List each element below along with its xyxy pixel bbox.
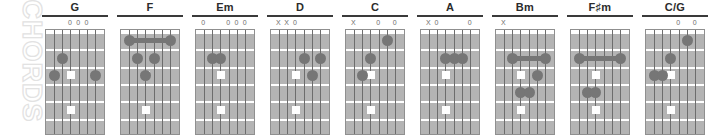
finger-dot [357,70,368,81]
finger-dot [49,70,60,81]
fretboard[interactable] [570,29,630,135]
fret-inlay-marker [367,71,375,79]
chord-sheet: CHORDS G000FEm0000DXX0CX00AX00BmXF♯mC/G0… [0,0,711,138]
finger-dot [532,70,543,81]
string-line [520,30,521,134]
chord-name: F [113,0,187,15]
chord-diagram[interactable]: F [113,0,187,138]
string-line [204,30,205,134]
string-line [229,30,230,134]
string-line [79,30,80,134]
string-line [454,30,455,134]
string-line [62,30,63,134]
string-line [445,30,446,134]
chord-name-rule [42,15,108,17]
chord-name: G [38,0,112,15]
open-string-marker: 0 [291,19,298,27]
fretboard[interactable] [345,29,405,135]
chord-name-rule [492,15,558,17]
finger-dot [57,53,68,64]
finger-dot [382,35,393,46]
fretboard[interactable] [120,29,180,135]
muted-string-marker: X [350,19,357,27]
fret-inlay-marker [592,106,600,114]
finger-dot [657,70,668,81]
string-line [587,30,588,134]
chord-name-rule [192,15,258,17]
chord-diagram[interactable]: BmX [488,0,562,138]
fret-inlay-marker [442,106,450,114]
chord-diagram[interactable]: Em0000 [188,0,262,138]
muted-string-marker: X [275,19,282,27]
chord-diagram[interactable]: G000 [38,0,112,138]
finger-dot [590,87,601,98]
fretboard[interactable] [270,29,330,135]
string-line [695,30,696,134]
muted-string-marker: X [425,19,432,27]
chord-name-rule [267,15,333,17]
chord-diagram[interactable]: CX00 [338,0,412,138]
finger-dot [457,53,468,64]
string-line [312,30,313,134]
string-line [279,30,280,134]
open-string-marker: 0 [83,19,90,27]
string-line [545,30,546,134]
string-markers: 000 [45,18,105,29]
string-line [379,30,380,134]
string-markers: X00 [420,18,480,29]
finger-dot [132,53,143,64]
string-line [579,30,580,134]
open-string-marker: 0 [233,19,240,27]
chord-name: C/G [638,0,711,15]
string-markers [570,18,630,29]
fretboard[interactable] [195,29,255,135]
fretboard[interactable] [45,29,105,135]
finger-dot [365,53,376,64]
string-line [362,30,363,134]
chord-diagram[interactable]: F♯m [563,0,637,138]
string-line [537,30,538,134]
string-line [512,30,513,134]
string-markers [120,18,180,29]
string-line [54,30,55,134]
fretboard[interactable] [420,29,480,135]
finger-dot [165,35,176,46]
string-line [620,30,621,134]
finger-dot [315,53,326,64]
string-line [679,30,680,134]
muted-string-marker: X [500,19,507,27]
finger-dot [524,87,535,98]
chord-name: C [338,0,412,15]
fretboard[interactable] [645,29,705,135]
finger-dot [574,53,585,64]
fret-inlay-marker [217,106,225,114]
chord-name-rule [117,15,183,17]
chord-diagram[interactable]: C/G00 [638,0,711,138]
chord-name-rule [417,15,483,17]
string-line [237,30,238,134]
fret-inlay-marker [142,106,150,114]
fretboard[interactable] [495,29,555,135]
chord-diagram[interactable]: DXX0 [263,0,337,138]
string-line [529,30,530,134]
string-line [370,30,371,134]
fret-inlay-marker [67,106,75,114]
finger-dot [149,53,160,64]
fret-inlay-marker [292,71,300,79]
string-line [287,30,288,134]
string-line [354,30,355,134]
string-markers: X [495,18,555,29]
finger-dot [615,53,626,64]
chord-name: D [263,0,337,15]
chord-diagram[interactable]: AX00 [413,0,487,138]
string-markers: 00 [645,18,705,29]
chord-name-rule [342,15,408,17]
string-markers: X00 [345,18,405,29]
string-line [604,30,605,134]
chord-name: F♯m [563,0,637,15]
chord-name: A [413,0,487,15]
fret-inlay-marker [292,106,300,114]
string-line [662,30,663,134]
chord-name: Em [188,0,262,15]
finger-dot [90,70,101,81]
